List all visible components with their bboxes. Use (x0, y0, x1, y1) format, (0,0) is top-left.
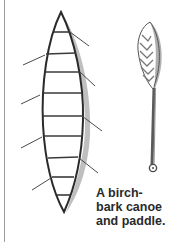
paddle-drawing (138, 22, 162, 172)
canoe-drawing (21, 12, 102, 213)
caption-line-2: bark canoe (96, 200, 171, 214)
figure-caption: A birch- bark canoe and paddle. (96, 186, 171, 228)
caption-line-3: and paddle. (96, 214, 171, 228)
caption-line-1: A birch- (96, 186, 171, 200)
